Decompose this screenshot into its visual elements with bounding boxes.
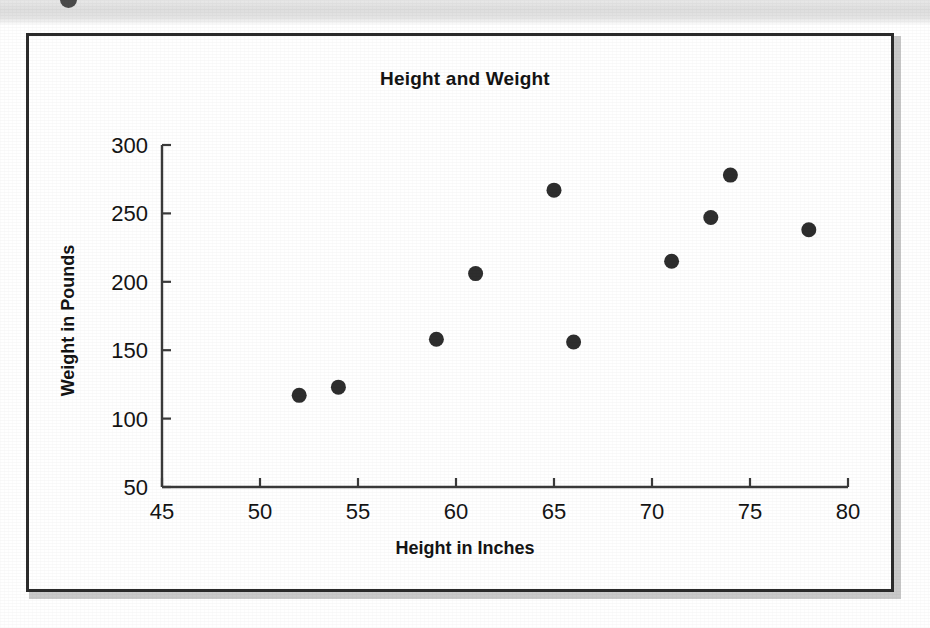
data-point [292,388,307,403]
data-point [723,168,738,183]
data-point [801,222,816,237]
x-tick-label: 65 [542,499,566,524]
y-tick-label: 50 [124,475,148,500]
x-tick-label: 45 [150,499,174,524]
data-point [664,254,679,269]
y-tick-label: 150 [111,338,148,363]
x-tick-label: 60 [444,499,468,524]
data-points-group [292,168,817,403]
data-point [429,332,444,347]
data-point [566,334,581,349]
y-tick-label: 250 [111,201,148,226]
axes-group [162,145,848,487]
y-tick-label: 100 [111,407,148,432]
data-point [703,210,718,225]
x-tick-label: 75 [738,499,762,524]
x-tick-group: 4550556065707580 [150,478,860,524]
y-tick-label: 300 [111,133,148,158]
scatter-plot: 4550556065707580 50100150200250300 [0,0,930,628]
x-tick-label: 55 [346,499,370,524]
y-tick-label: 200 [111,270,148,295]
data-point [468,266,483,281]
x-tick-label: 70 [640,499,664,524]
x-tick-label: 50 [248,499,272,524]
x-tick-label: 80 [836,499,860,524]
data-point [331,380,346,395]
data-point [547,183,562,198]
